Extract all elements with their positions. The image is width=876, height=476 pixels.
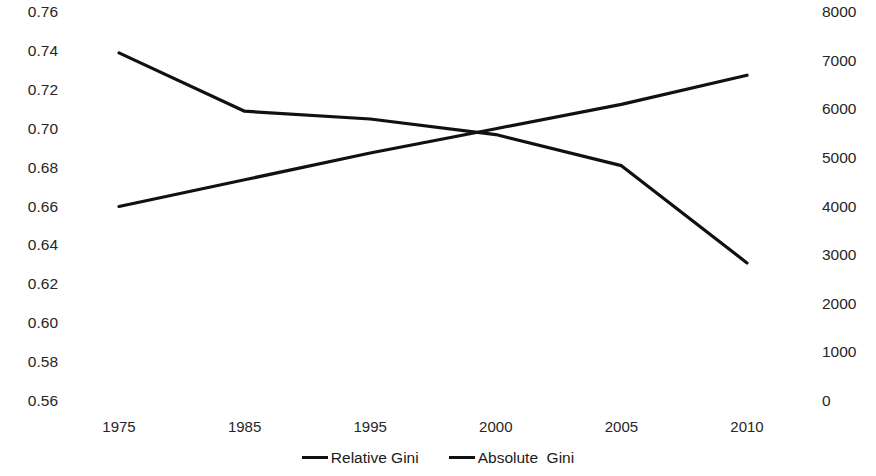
legend-line-icon [449,456,475,459]
legend-item-label: Relative Gini [331,450,419,466]
plot-area [0,0,876,476]
legend-item-label: Absolute Gini [478,450,575,466]
legend-item[interactable]: Absolute Gini [449,450,575,466]
chart-legend: Relative GiniAbsolute Gini [0,450,876,466]
legend-item[interactable]: Relative Gini [302,450,419,466]
legend-line-icon [302,456,328,459]
gini-line-chart: 0.760.740.720.700.680.660.640.620.600.58… [0,0,876,476]
series-line [119,53,747,263]
series-lines [119,53,747,263]
